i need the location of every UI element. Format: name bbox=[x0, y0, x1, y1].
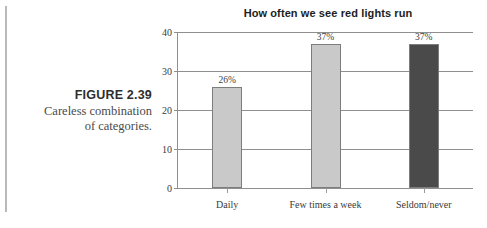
chart-title: How often we see red lights run bbox=[178, 7, 478, 19]
y-axis-tick-label: 30 bbox=[162, 66, 172, 77]
y-tick-mark-40 bbox=[174, 32, 178, 33]
bar-few-times-a-week[interactable]: 37% bbox=[311, 44, 341, 188]
bar-value-label: 26% bbox=[218, 75, 235, 85]
bar-seldom-never[interactable]: 37% bbox=[409, 44, 439, 188]
x-tick-mark bbox=[326, 188, 327, 193]
y-tick-mark-20 bbox=[174, 110, 178, 111]
y-axis-tick-label: 0 bbox=[167, 183, 172, 194]
y-axis-tick-label: 20 bbox=[162, 105, 172, 116]
x-axis-tick-label: Daily bbox=[216, 199, 238, 210]
x-tick-mark bbox=[424, 188, 425, 193]
y-tick-mark-30 bbox=[174, 71, 178, 72]
x-tick-mark bbox=[227, 188, 228, 193]
plot-area: 01020304026%Daily37%Few times a week37%S… bbox=[178, 32, 473, 188]
y-tick-mark-10 bbox=[174, 149, 178, 150]
x-axis-tick-label: Few times a week bbox=[290, 199, 362, 210]
bar-daily[interactable]: 26% bbox=[212, 87, 242, 188]
y-axis-tick-label: 10 bbox=[162, 144, 172, 155]
x-axis-tick-label: Seldom/never bbox=[396, 199, 452, 210]
bar-chart: How often we see red lights run 01020304… bbox=[0, 0, 487, 228]
bar-value-label: 37% bbox=[415, 32, 432, 42]
bar-value-label: 37% bbox=[317, 32, 334, 42]
y-axis-tick-label: 40 bbox=[162, 27, 172, 38]
y-tick-mark-0 bbox=[174, 188, 178, 189]
